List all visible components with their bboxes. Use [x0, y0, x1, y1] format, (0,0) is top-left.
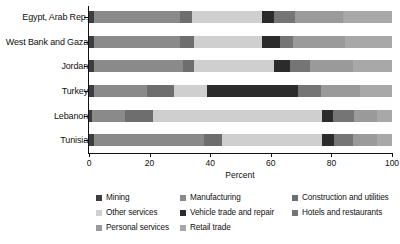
bar-segment [274, 60, 291, 72]
bar-segment [280, 36, 294, 48]
category-label: Turkey [62, 86, 88, 96]
bar-segment [333, 110, 354, 122]
bar-row [89, 60, 392, 72]
legend-label: Construction and utilities [302, 193, 389, 202]
bar-segment [94, 60, 183, 72]
bar-segment [353, 134, 377, 146]
y-axis-line [88, 6, 89, 153]
bar-segment [204, 134, 222, 146]
legend-swatch-icon [180, 210, 186, 216]
legend-label: Retail trade [190, 223, 231, 232]
bar-segment [180, 11, 192, 23]
bar-segment [298, 85, 321, 97]
bar-segment [334, 134, 352, 146]
stacked-bar-chart: Egypt, Arab Rep.West Bank and GazaJordan… [0, 0, 400, 244]
legend-swatch-icon [180, 225, 186, 231]
legend-item[interactable]: Mining [96, 193, 180, 202]
bar-segment [153, 110, 323, 122]
bar-segment [360, 85, 392, 97]
bar-segment [94, 11, 180, 23]
bar-row [89, 36, 392, 48]
x-axis-tick-label: 80 [327, 158, 336, 168]
x-axis-line [88, 153, 392, 154]
bar-row [89, 134, 392, 146]
bar-segment [377, 110, 392, 122]
category-label: Egypt, Arab Rep. [22, 12, 88, 22]
x-axis-tick-label: 40 [205, 158, 214, 168]
legend-label: Personal services [106, 223, 169, 232]
plot-area: Egypt, Arab Rep.West Bank and GazaJordan… [0, 0, 400, 170]
bar-segment [321, 85, 360, 97]
bar-segment [353, 60, 392, 72]
legend-label: Vehicle trade and repair [190, 208, 274, 217]
x-axis-tick-label: 0 [87, 158, 92, 168]
x-axis-tick [89, 153, 90, 157]
x-axis-tick-label: 20 [145, 158, 154, 168]
bar-segment [290, 60, 310, 72]
category-label: Tunisia [60, 135, 88, 145]
bar-segment [125, 110, 152, 122]
bar-segment [343, 11, 391, 23]
x-axis-title: Percent [225, 170, 254, 180]
legend-swatch-icon [96, 195, 102, 201]
x-axis-tick [271, 153, 272, 157]
legend-label: Manufacturing [190, 193, 241, 202]
bar-row [89, 110, 392, 122]
category-label: Lebanon [54, 111, 88, 121]
legend-item[interactable]: Manufacturing [180, 193, 292, 202]
x-axis-tick [392, 153, 393, 157]
x-axis-tick [331, 153, 332, 157]
bar-segment [194, 60, 274, 72]
legend-item[interactable]: Vehicle trade and repair [180, 208, 292, 217]
x-axis-tick [210, 153, 211, 157]
legend-swatch-icon [96, 225, 102, 231]
bar-segment [322, 110, 333, 122]
bar-row [89, 11, 392, 23]
bar-segment [183, 60, 194, 72]
legend-item[interactable]: Retail trade [180, 223, 292, 232]
x-axis-tick-label: 60 [266, 158, 275, 168]
bar-segment [192, 11, 262, 23]
category-label: West Bank and Gaza [6, 37, 88, 47]
bar-segment [147, 85, 174, 97]
bar-segment [174, 85, 207, 97]
category-label: Jordan [61, 61, 88, 71]
bar-segment [94, 134, 205, 146]
bar-segment [377, 134, 392, 146]
legend-label: Other services [106, 208, 157, 217]
legend-label: Hotels and restaurants [302, 208, 382, 217]
bar-row [89, 85, 392, 97]
legend-swatch-icon [180, 195, 186, 201]
legend-item[interactable]: Other services [96, 208, 180, 217]
bar-segment [345, 36, 392, 48]
bar-segment [354, 110, 377, 122]
legend-swatch-icon [96, 210, 102, 216]
legend-swatch-icon [292, 195, 298, 201]
x-axis-tick-label: 100 [385, 158, 399, 168]
legend-label: Mining [106, 193, 130, 202]
bar-segment [310, 60, 352, 72]
bar-segment [322, 134, 334, 146]
x-axis-tick [150, 153, 151, 157]
bar-segment [274, 11, 295, 23]
chart-legend: MiningManufacturingConstruction and util… [96, 190, 396, 235]
bar-segment [94, 36, 180, 48]
bar-segment [262, 36, 280, 48]
bar-segment [262, 11, 274, 23]
legend-item[interactable]: Hotels and restaurants [292, 208, 400, 217]
legend-swatch-icon [292, 210, 298, 216]
bar-segment [94, 85, 147, 97]
bar-segment [194, 36, 262, 48]
legend-item[interactable]: Construction and utilities [292, 193, 400, 202]
bar-segment [180, 36, 194, 48]
legend-item[interactable]: Personal services [96, 223, 180, 232]
bar-segment [222, 134, 322, 146]
bar-segment [293, 36, 345, 48]
bar-segment [92, 110, 125, 122]
bar-segment [295, 11, 343, 23]
bar-segment [207, 85, 298, 97]
